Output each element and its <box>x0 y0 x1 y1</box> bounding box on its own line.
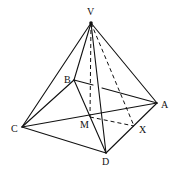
label-D: D <box>102 156 109 167</box>
apex-dot <box>89 21 93 25</box>
edge-VA <box>91 23 157 103</box>
edge-CD <box>22 127 106 153</box>
height-VM <box>90 23 91 117</box>
edge-VC <box>22 23 91 127</box>
pyramid-svg: V B A C M X D <box>0 0 176 172</box>
pyramid-diagram: V B A C M X D <box>0 0 176 172</box>
edge-VB <box>74 23 91 80</box>
label-M: M <box>80 119 89 130</box>
edge-BA-part2 <box>102 88 157 103</box>
label-C: C <box>11 123 18 134</box>
segment-MX <box>90 117 134 126</box>
label-V: V <box>87 6 95 17</box>
label-X: X <box>139 124 147 135</box>
label-B: B <box>64 74 71 85</box>
label-A: A <box>161 99 169 110</box>
